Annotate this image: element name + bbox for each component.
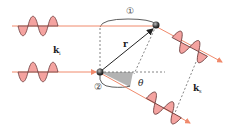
angle-label: θ <box>138 78 144 88</box>
scattered-wave-1 <box>168 29 212 65</box>
scattering-diagram: ① ② r θ k i k s <box>0 0 230 134</box>
incident-wave-2 <box>18 62 58 82</box>
scatterer-1 <box>153 22 160 29</box>
angle-wedge <box>100 72 133 87</box>
position-vector-label: r <box>123 39 128 49</box>
incident-wavevector-subscript: i <box>59 50 61 56</box>
scattered-wavevector-subscript: s <box>199 88 202 94</box>
scatterer-2-label: ② <box>94 82 102 92</box>
scatterer-1-label: ① <box>126 6 134 16</box>
position-vector-r <box>101 29 153 71</box>
scatterer-2 <box>97 69 104 76</box>
scattered-beam-1 <box>157 27 222 62</box>
incident-wave-1 <box>18 16 58 36</box>
dashed-perp-1 <box>134 26 156 74</box>
scattered-wave-2 <box>142 90 186 126</box>
